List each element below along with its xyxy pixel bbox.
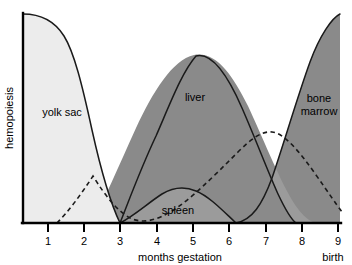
x-axis-title: months gestation: [138, 251, 222, 263]
birth-label: birth: [322, 251, 343, 263]
x-tick-label-1: 1: [45, 235, 51, 247]
chart-canvas: 1 2 3 4 5 6 7 8 9 months gestation birth…: [0, 0, 352, 265]
series-label-yolk-sac: yolk sac: [42, 106, 82, 118]
x-tick-label-5: 5: [190, 235, 196, 247]
series-label-spleen: spleen: [162, 204, 194, 216]
y-axis-title: hemopoiesis: [3, 87, 15, 149]
x-tick-label-2: 2: [81, 235, 87, 247]
area-yolk-sac: [23, 14, 120, 223]
x-tick-label-6: 6: [226, 235, 232, 247]
hemopoiesis-chart: 1 2 3 4 5 6 7 8 9 months gestation birth…: [0, 0, 352, 265]
series-label-liver: liver: [185, 91, 206, 103]
x-tick-label-7: 7: [263, 235, 269, 247]
x-tick-label-3: 3: [117, 235, 123, 247]
x-tick-label-9: 9: [335, 235, 341, 247]
series-label-bone-marrow-line2: marrow: [301, 105, 338, 117]
x-tick-label-4: 4: [154, 235, 160, 247]
series-label-bone-marrow-line1: bone: [307, 92, 331, 104]
x-tick-label-8: 8: [299, 235, 305, 247]
